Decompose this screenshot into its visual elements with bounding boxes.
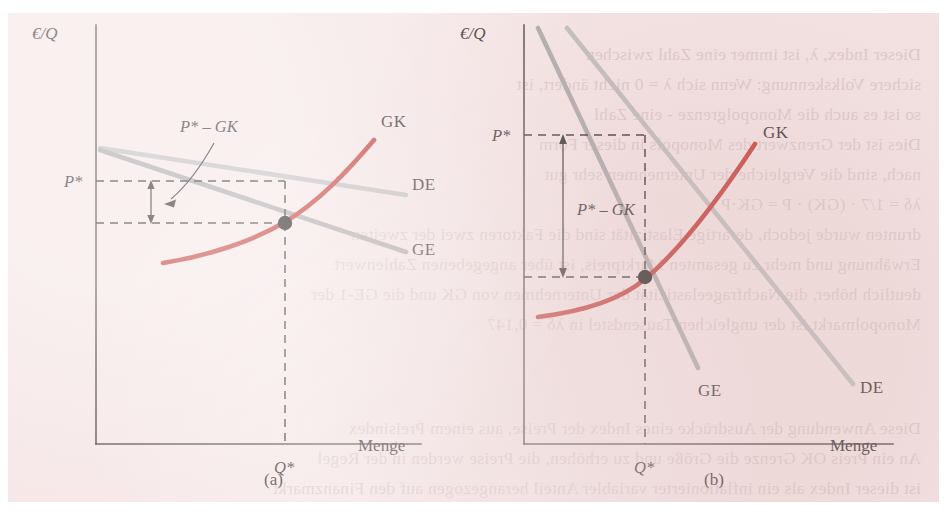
panel-a-label-de: DE	[412, 175, 435, 194]
figure-root: Dieser Index, λ, ist immer eine Zahl zwi…	[0, 0, 947, 515]
panel-b-y-axis-label: €/Q	[460, 24, 486, 43]
panel-b-equilibrium-dot	[638, 270, 652, 284]
panel-b-label-gk: GK	[763, 123, 789, 142]
panel-b-curve-ge	[538, 28, 698, 368]
panel-a-markup-label: P* – GK	[179, 117, 239, 136]
panel-a-label-gk: GK	[381, 112, 407, 131]
panel-a-markup-arrow	[147, 180, 154, 224]
panel-a-price-star-label: P*	[63, 172, 83, 191]
panel-a-y-axis-label: €/Q	[32, 24, 58, 43]
panel-a-curve-gk	[163, 140, 374, 263]
panel-b-x-axis-label: Menge	[830, 436, 877, 455]
panel-a-equilibrium-dot	[278, 216, 292, 230]
panel-a-caption: (a)	[264, 470, 283, 489]
scanned-page-plate: Dieser Index, λ, ist immer eine Zahl zwi…	[8, 13, 939, 502]
panel-b: €/Q Menge P* Q* P* – GK GK DE GE (b)	[460, 24, 893, 489]
panel-b-caption: (b)	[704, 470, 724, 489]
panel-b-markup-label: P* – GK	[576, 200, 636, 219]
panel-a: €/Q Menge P* Q* P* – GK GK DE GE (a)	[32, 24, 435, 489]
panel-b-price-star-label: P*	[491, 126, 511, 145]
panel-b-label-de: DE	[860, 378, 883, 397]
panel-b-curve-gk	[538, 144, 755, 317]
panel-b-markup-arrow	[559, 134, 567, 278]
panel-b-label-ge: GE	[698, 381, 721, 400]
panel-a-label-ge: GE	[412, 240, 435, 259]
panel-a-x-axis-label: Menge	[358, 436, 405, 455]
economics-figure-svg: €/Q Menge P* Q* P* – GK GK DE GE (a)	[8, 13, 939, 502]
panel-b-quantity-star-label: Q*	[634, 458, 655, 477]
